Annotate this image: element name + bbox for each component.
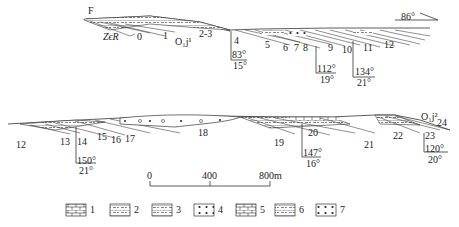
attitude-strike: 83° [232,50,246,60]
cross-section-diagram [0,0,459,227]
legend-num: 3 [176,205,181,215]
stratum-label: 16 [111,135,121,145]
stratum-label: 10 [342,45,352,55]
stratum-label: 23 [425,131,435,141]
fault-label: F [88,6,94,16]
stratum-label: 7 [294,43,299,53]
stratum-label: 21 [364,140,374,150]
stratum-label: 6 [283,43,288,53]
stratum-label: 9 [328,43,333,53]
stratum-label: 24 [437,118,447,128]
stratum-label: 14 [77,137,87,147]
stratum-label: 12 [384,40,394,50]
stratum-label: 13 [60,137,70,147]
scale-tick-label: 0 [147,171,152,181]
stratum-label: 17 [125,134,135,144]
bottom-cross-section [8,115,450,163]
legend-num: 2 [134,205,139,215]
legend [66,204,336,216]
attitude-dip: 16° [306,159,320,169]
legend-num: 4 [218,205,223,215]
stratum-label: 11 [363,43,373,53]
scale-tick-label: 400 [202,171,217,181]
stratum-label: 8 [303,43,308,53]
attitude-dip: 20° [428,155,442,165]
stratum-label: 5 [265,40,270,50]
scale-tick-label: 800m [259,171,282,181]
stratum-label: 19 [274,138,284,148]
formation-label: O₁j² [421,112,437,122]
stratum-label: 2-3 [199,29,212,39]
attitude-dip: 15° [233,61,247,71]
legend-num: 1 [90,205,95,215]
attitude-strike: 134° [355,67,374,77]
formation-label: O₁j¹ [175,37,191,47]
attitude-dip: 19° [320,75,334,85]
stratum-label: 12 [16,140,26,150]
attitude-strike: 147° [303,148,322,158]
attitude-dip: 21° [79,166,93,176]
stratum-label: 22 [393,131,403,141]
stratum-label: 18 [198,128,208,138]
legend-num: 6 [299,205,304,215]
stratum-label: 20 [308,128,318,138]
legend-num: 5 [260,205,265,215]
stratum-label: 15 [97,132,107,142]
attitude-strike: 112° [317,64,336,74]
stratum-label: ZϵR [103,32,119,42]
stratum-label: 1 [163,31,168,41]
attitude-dip: 21° [357,78,371,88]
attitude-strike: 120° [425,144,444,154]
stratum-label: 0 [137,32,142,42]
stratum-label: 4 [234,36,239,46]
direction-label: 86° [401,12,415,22]
legend-num: 7 [340,205,345,215]
scale-bar [150,181,270,186]
